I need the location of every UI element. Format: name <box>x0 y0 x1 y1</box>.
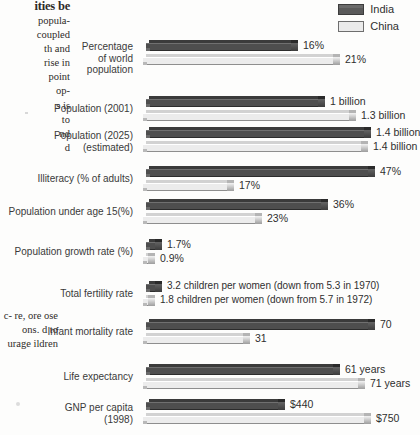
bar-shape-india <box>146 40 291 51</box>
bar-end-cap <box>255 213 262 224</box>
category-label-line: Population under age 15(%) <box>5 206 133 218</box>
bar-india-population-growth-rate: 1.7% <box>143 239 405 253</box>
bar-value-label-china: 23% <box>267 212 288 224</box>
bar-india-gnp-per-capita-1998: $440 <box>143 399 405 413</box>
category-label-line: Illiteracy (% of adults) <box>5 173 133 185</box>
bar-shape-india <box>146 166 368 177</box>
bar-shape-india <box>146 281 155 292</box>
bar-front-face <box>143 416 364 424</box>
bar-value-label-india: 70 <box>380 318 392 330</box>
category-label-gnp-per-capita-1998: GNP per capita(1998) <box>5 402 133 425</box>
bar-china-percentage-of-world-population: 21% <box>143 54 405 68</box>
bar-shape-china <box>143 141 361 152</box>
bar-left-chamfer <box>146 104 150 107</box>
bar-end-cap <box>358 378 365 389</box>
bar-group-bars: 36%23% <box>143 199 405 227</box>
bar-end-cap <box>155 239 162 250</box>
bar-china-illiteracy-of-adults: 17% <box>143 180 405 194</box>
category-label-illiteracy-of-adults: Illiteracy (% of adults) <box>5 173 133 185</box>
bar-top-face <box>149 96 318 99</box>
bar-group-bars: 16%21% <box>143 40 405 68</box>
bar-value-label-india: 1.4 billion <box>376 126 420 138</box>
category-label-line: Life expectancy <box>5 371 133 383</box>
category-label-population-2001: Population (2001) <box>5 103 133 115</box>
bar-left-chamfer <box>143 421 147 424</box>
bar-value-label-india: 1.7% <box>167 238 191 250</box>
bar-value-label-china: 17% <box>239 179 260 191</box>
bar-left-chamfer <box>146 407 150 410</box>
bar-front-face <box>143 216 255 224</box>
bar-shape-china <box>143 180 227 191</box>
bar-left-chamfer <box>143 62 147 65</box>
bar-top-face <box>149 166 368 169</box>
bar-left-chamfer <box>146 372 150 375</box>
bar-top-face <box>149 40 291 43</box>
bar-end-cap <box>364 127 371 138</box>
category-label-line: (estimated) <box>5 142 133 154</box>
bar-top-face <box>146 141 361 144</box>
bar-left-chamfer <box>143 149 147 152</box>
bar-end-cap <box>318 96 325 107</box>
bar-end-cap <box>349 110 356 121</box>
category-label-line: GNP per capita <box>5 402 133 414</box>
bar-china-infant-mortality-rate: 31 <box>143 333 405 347</box>
bar-left-chamfer <box>146 289 150 292</box>
bar-front-face <box>146 43 291 51</box>
bar-end-cap <box>333 54 340 65</box>
bar-top-face <box>149 364 333 367</box>
bar-india-percentage-of-world-population: 16% <box>143 40 405 54</box>
bar-value-label-china: $750 <box>376 412 399 424</box>
bar-value-label-india: 36% <box>333 198 354 210</box>
bar-front-face <box>146 169 368 177</box>
category-label-infant-mortality-rate: Infant mortality rate <box>5 326 133 338</box>
bar-end-cap <box>148 253 155 264</box>
bar-shape-china <box>143 110 349 121</box>
bar-india-life-expectancy: 61 years <box>143 364 405 378</box>
category-label-population-2025-estimated: Population (2025)(estimated) <box>5 130 133 153</box>
bar-left-chamfer <box>146 48 150 51</box>
bar-value-label-china: 0.9% <box>160 252 184 264</box>
bar-left-chamfer <box>143 261 147 264</box>
category-label-percentage-of-world-population: Percentageof worldpopulation <box>5 41 133 76</box>
bar-front-face <box>143 183 227 191</box>
bar-left-chamfer <box>146 174 150 177</box>
bar-left-chamfer <box>146 247 150 250</box>
bar-value-label-china: 1.8 children per women (down from 5.7 in… <box>160 294 372 305</box>
bar-value-label-india: 47% <box>380 165 401 177</box>
bar-front-face <box>143 57 333 65</box>
bar-shape-china <box>143 295 148 306</box>
bar-value-label-china: 1.4 billion <box>373 140 417 152</box>
bar-front-face <box>143 113 349 121</box>
bar-shape-china <box>143 213 255 224</box>
bar-shape-india <box>146 239 155 250</box>
bar-top-face <box>146 378 358 381</box>
bar-value-label-india: 61 years <box>345 363 385 375</box>
bar-front-face <box>146 202 321 210</box>
bar-group-bars: 7031 <box>143 319 405 347</box>
bar-front-face <box>143 381 358 389</box>
bar-shape-india <box>146 96 318 107</box>
category-label-line: Infant mortality rate <box>5 326 133 338</box>
category-label-line: (1998) <box>5 414 133 426</box>
bar-end-cap <box>368 166 375 177</box>
bar-group-bars: 3.2 children per women (down from 5.3 in… <box>143 281 405 309</box>
bar-top-face <box>146 213 255 216</box>
bar-top-face <box>149 399 278 402</box>
bar-china-population-2001: 1.3 billion <box>143 110 405 124</box>
bar-shape-china <box>143 54 333 65</box>
bar-top-face <box>146 180 227 183</box>
category-label-line: Percentage <box>5 41 133 53</box>
category-label-total-fertility-rate: Total fertility rate <box>5 288 133 300</box>
bar-shape-india <box>146 319 368 330</box>
bar-left-chamfer <box>146 135 150 138</box>
bar-shape-india <box>146 364 333 375</box>
bar-china-population-2025-estimated: 1.4 billion <box>143 141 405 155</box>
bar-left-chamfer <box>143 386 147 389</box>
bar-end-cap <box>361 141 368 152</box>
bar-left-chamfer <box>146 327 150 330</box>
bar-india-illiteracy-of-adults: 47% <box>143 166 405 180</box>
bar-front-face <box>143 336 243 344</box>
bar-value-label-india: $440 <box>290 398 313 410</box>
bar-value-label-china: 1.3 billion <box>361 109 405 121</box>
category-label-line: Total fertility rate <box>5 288 133 300</box>
